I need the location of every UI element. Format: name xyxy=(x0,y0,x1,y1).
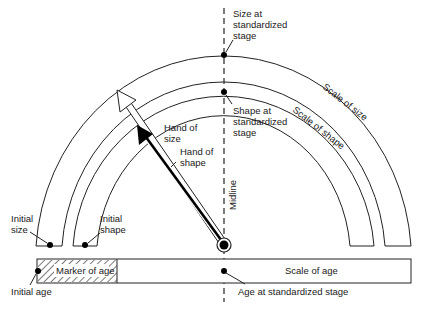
scale-of-age-label: Scale of age xyxy=(285,265,338,276)
initial-age-dot xyxy=(35,268,41,274)
initial-size-dot xyxy=(47,242,53,248)
hand-of-size-label: Hand of size xyxy=(164,122,200,144)
midline-label: Midline xyxy=(227,180,238,210)
scale-of-size-label: Scale of size xyxy=(321,81,370,123)
size-standard-label: Size at standardized stage xyxy=(233,8,290,41)
initial-shape-label: Initial shape xyxy=(100,213,126,235)
marker-of-age-label: Marker of age xyxy=(56,265,115,276)
initial-shape-dot xyxy=(82,242,88,248)
age-standard-label: Age at standardized stage xyxy=(238,286,348,297)
initial-size-label: Initial size xyxy=(11,213,36,235)
shape-standard-label: Shape at standardized stage xyxy=(233,105,290,138)
hand-of-shape-label: Hand of shape xyxy=(180,146,216,168)
initial-age-label: Initial age xyxy=(11,286,52,297)
size-standard-dot xyxy=(221,52,227,58)
shape-standard-dot xyxy=(221,89,227,95)
dial-diagram: Midline Size at standardized stage Shape… xyxy=(0,0,421,309)
